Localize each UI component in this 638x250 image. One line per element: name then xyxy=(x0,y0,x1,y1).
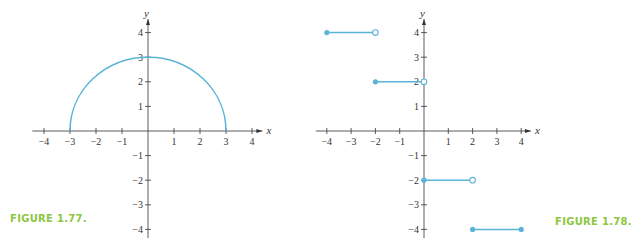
y-arrow-icon xyxy=(146,19,150,25)
x-axis-label: x xyxy=(534,124,540,136)
figure-caption-left: FIGURE 1.77. xyxy=(10,213,87,224)
open-endpoint-icon xyxy=(470,177,476,183)
closed-endpoint-icon xyxy=(519,227,524,232)
x-tick-label: −4 xyxy=(39,136,50,147)
y-arrow-icon xyxy=(422,19,426,25)
x-tick-label: 3 xyxy=(494,136,499,147)
x-tick-label: −1 xyxy=(394,136,405,147)
y-axis-label: y xyxy=(143,7,149,19)
x-tick-label: −3 xyxy=(65,136,76,147)
y-tick-label: −2 xyxy=(408,175,419,186)
y-tick-label: 1 xyxy=(138,101,143,112)
figure-caption-right: FIGURE 1.78. xyxy=(555,216,632,227)
chart-figure-1-78: xy−4−3−2−11234−4−3−2−11234 xyxy=(316,7,540,238)
y-tick-label: −2 xyxy=(132,175,143,186)
x-tick-label: 1 xyxy=(172,136,177,147)
y-axis-label: y xyxy=(419,7,425,19)
y-tick-label: −1 xyxy=(408,150,419,161)
y-tick-label: 3 xyxy=(414,52,419,63)
x-axis-label: x xyxy=(265,124,271,136)
y-tick-label: −4 xyxy=(132,224,143,235)
y-tick-label: −3 xyxy=(408,199,419,210)
x-arrow-icon xyxy=(256,129,262,133)
x-tick-label: −2 xyxy=(91,136,102,147)
closed-endpoint-icon xyxy=(324,30,329,35)
x-tick-label: 2 xyxy=(198,136,203,147)
x-tick-label: 4 xyxy=(250,136,255,147)
x-tick-label: 2 xyxy=(470,136,475,147)
x-tick-label: −4 xyxy=(321,136,332,147)
y-tick-label: 4 xyxy=(138,27,143,38)
x-tick-label: 4 xyxy=(519,136,524,147)
y-tick-label: 1 xyxy=(414,101,419,112)
y-tick-label: −4 xyxy=(408,224,419,235)
x-tick-label: −2 xyxy=(370,136,381,147)
y-tick-label: −1 xyxy=(132,150,143,161)
x-tick-label: 1 xyxy=(446,136,451,147)
closed-endpoint-icon xyxy=(470,227,475,232)
x-arrow-icon xyxy=(525,129,531,133)
closed-endpoint-icon xyxy=(421,178,426,183)
x-tick-label: −1 xyxy=(117,136,128,147)
chart-figure-1-77: xy−4−3−2−11234−4−3−2−11234 xyxy=(32,7,271,238)
x-tick-label: 3 xyxy=(224,136,229,147)
x-tick-label: −3 xyxy=(346,136,357,147)
figures-canvas: xy−4−3−2−11234−4−3−2−11234xy−4−3−2−11234… xyxy=(0,0,638,250)
y-tick-label: 2 xyxy=(138,76,143,87)
closed-endpoint-icon xyxy=(373,79,378,84)
open-endpoint-icon xyxy=(421,79,427,85)
y-tick-label: −3 xyxy=(132,199,143,210)
open-endpoint-icon xyxy=(373,30,379,36)
y-tick-label: 4 xyxy=(414,27,419,38)
